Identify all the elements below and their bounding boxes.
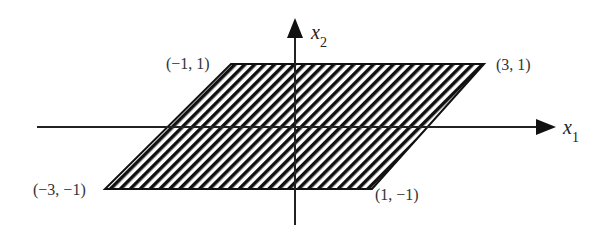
x1-axis-arrowhead-icon <box>536 119 556 135</box>
x1-axis-label: x1 <box>562 116 579 145</box>
x2-axis-arrowhead-icon <box>287 18 303 38</box>
x2-axis-label: x2 <box>310 21 327 50</box>
vertex-label-top-left: (−1, 1) <box>166 55 210 73</box>
vertex-label-bottom-left: (−3, −1) <box>33 181 86 199</box>
coordinate-diagram: x1 x2 (−1, 1) (3, 1) (−3, −1) (1, −1) <box>0 0 613 235</box>
vertex-label-bottom-right: (1, −1) <box>375 186 419 204</box>
vertex-label-top-right: (3, 1) <box>496 56 531 74</box>
